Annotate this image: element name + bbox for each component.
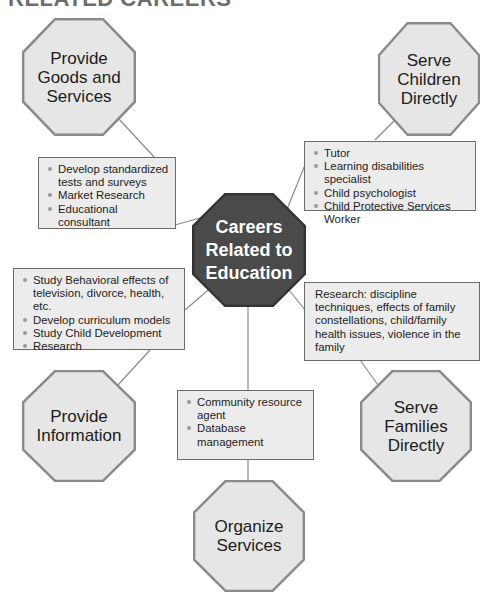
label-line: Education xyxy=(205,262,292,285)
list-item: Community resource agent xyxy=(186,396,307,422)
box-provide-information-careers: Study Behavioral effects of television, … xyxy=(13,268,185,350)
label-line: Services xyxy=(215,536,284,555)
list-item: Child psychologist xyxy=(313,187,469,200)
bullet-icon xyxy=(314,151,318,155)
list-item: Learning disabilities specialist xyxy=(313,160,469,186)
list-item: Market Research xyxy=(47,189,169,202)
list-item-text: Research xyxy=(33,340,82,352)
node-organize-services: Organize Services xyxy=(193,480,305,592)
bullet-icon xyxy=(23,344,27,348)
bullet-icon xyxy=(23,331,27,335)
list-item-text: Community resource agent xyxy=(197,396,302,421)
node-label: Provide Goods and Services xyxy=(37,49,120,106)
label-line: Serve xyxy=(397,51,460,70)
bullet-icon xyxy=(48,193,52,197)
list-item-text: Develop curriculum models xyxy=(33,314,170,326)
list-item-text: Develop standardized tests and surveys xyxy=(58,163,168,188)
list-item-text: Educational consultant xyxy=(58,203,118,228)
list-item: Research xyxy=(22,340,178,353)
box-organize-services-careers: Community resource agent Database manage… xyxy=(177,390,314,460)
box-goods-services-careers: Develop standardized tests and surveys M… xyxy=(38,157,176,229)
career-list: Study Behavioral effects of television, … xyxy=(22,274,178,353)
node-label: Organize Services xyxy=(215,517,284,555)
box-serve-families-careers: Research: discipline techniques, effects… xyxy=(304,282,480,361)
list-item-text: Learning disabilities specialist xyxy=(324,160,424,185)
bullet-icon xyxy=(314,204,318,208)
node-label: Serve Children Directly xyxy=(397,51,460,108)
node-serve-families-directly: Serve Families Directly xyxy=(360,370,472,482)
list-item: Study Child Development xyxy=(22,327,178,340)
bullet-icon xyxy=(48,207,52,211)
list-item-text: Tutor xyxy=(324,147,350,159)
bullet-icon xyxy=(187,400,191,404)
node-serve-children-directly: Serve Children Directly xyxy=(378,22,480,136)
node-careers-related-to-education: Careers Related to Education xyxy=(192,193,306,307)
bullet-icon xyxy=(314,191,318,195)
node-label: Serve Families Directly xyxy=(384,398,447,455)
list-item-text: Database management xyxy=(197,422,264,447)
label-line: Related to xyxy=(205,239,292,262)
label-line: Careers xyxy=(205,216,292,239)
label-line: Serve xyxy=(384,398,447,417)
career-list: Develop standardized tests and surveys M… xyxy=(47,163,169,229)
list-item: Develop standardized tests and surveys xyxy=(47,163,169,189)
label-line: Children xyxy=(397,70,460,89)
list-item-text: Child Protective Services Worker xyxy=(324,200,451,225)
bullet-icon xyxy=(23,318,27,322)
list-item-text: Child psychologist xyxy=(324,187,416,199)
label-line: Provide xyxy=(36,407,121,426)
bullet-icon xyxy=(187,426,191,430)
research-paragraph: Research: discipline techniques, effects… xyxy=(315,288,473,354)
list-item: Database management xyxy=(186,422,307,448)
list-item: Study Behavioral effects of television, … xyxy=(22,274,178,314)
list-item: Educational consultant xyxy=(47,203,169,229)
label-line: Families xyxy=(384,417,447,436)
career-list: Tutor Learning disabilities specialist C… xyxy=(313,147,469,226)
list-item-text: Market Research xyxy=(58,189,145,201)
node-label: Provide Information xyxy=(36,407,121,445)
list-item-text: Study Behavioral effects of television, … xyxy=(33,274,168,312)
career-list: Community resource agent Database manage… xyxy=(186,396,307,449)
label-line: Goods and xyxy=(37,68,120,87)
node-provide-information: Provide Information xyxy=(22,370,136,482)
label-line: Provide xyxy=(37,49,120,68)
label-line: Organize xyxy=(215,517,284,536)
list-item-text: Study Child Development xyxy=(33,327,162,339)
label-line: Directly xyxy=(384,436,447,455)
center-label: Careers Related to Education xyxy=(205,216,292,285)
label-line: Information xyxy=(36,426,121,445)
bullet-icon xyxy=(314,164,318,168)
list-item: Tutor xyxy=(313,147,469,160)
list-item: Child Protective Services Worker xyxy=(313,200,469,226)
label-line: Services xyxy=(37,87,120,106)
bullet-icon xyxy=(48,167,52,171)
label-line: Directly xyxy=(397,89,460,108)
box-serve-children-careers: Tutor Learning disabilities specialist C… xyxy=(304,141,476,211)
list-item: Develop curriculum models xyxy=(22,314,178,327)
node-provide-goods-services: Provide Goods and Services xyxy=(22,18,136,136)
bullet-icon xyxy=(23,278,27,282)
